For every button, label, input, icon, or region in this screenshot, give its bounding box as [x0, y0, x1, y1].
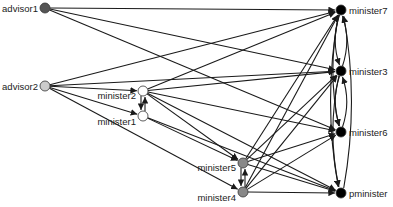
node-label: minister4 [197, 192, 236, 203]
node-circle[interactable] [336, 66, 346, 76]
node-circle[interactable] [238, 158, 248, 168]
node-minister2[interactable]: minister2 [97, 86, 148, 101]
edge-minister2-to-minister7 [148, 12, 336, 89]
node-label: pminister [349, 188, 388, 199]
edge-minister2-to-minister6 [148, 92, 335, 131]
node-minister1[interactable]: minister1 [97, 111, 148, 127]
node-circle[interactable] [336, 5, 346, 15]
node-circle[interactable] [238, 187, 248, 197]
node-minister7[interactable]: minister7 [336, 5, 388, 16]
network-diagram: advisor1advisor2minister2minister1minist… [0, 0, 393, 207]
node-minister6[interactable]: minister6 [336, 127, 388, 138]
node-label: minister7 [349, 5, 388, 16]
node-minister4[interactable]: minister4 [197, 187, 248, 203]
node-minister3[interactable]: minister3 [336, 66, 388, 77]
node-pminister[interactable]: pminister [336, 188, 388, 199]
edge-minister6-to-minister3 [343, 77, 347, 127]
node-circle[interactable] [138, 111, 148, 121]
nodes-layer: advisor1advisor2minister2minister1minist… [2, 3, 387, 204]
node-label: minister2 [97, 90, 136, 101]
edge-minister1-to-minister5 [148, 118, 238, 160]
node-advisor1[interactable]: advisor1 [2, 3, 50, 14]
edge-pminister-to-minister7 [344, 16, 352, 188]
edge-minister2-to-minister3 [148, 72, 335, 91]
edge-minister2-to-minister5 [147, 94, 238, 160]
node-label: advisor2 [2, 81, 38, 92]
node-label: minister6 [349, 127, 388, 138]
node-circle[interactable] [138, 86, 148, 96]
node-minister5[interactable]: minister5 [197, 158, 248, 173]
edge-minister5-to-minister6 [248, 134, 336, 162]
edge-minister4-to-pminister [248, 192, 335, 193]
node-label: minister1 [97, 116, 136, 127]
edge-minister5-to-pminister [248, 164, 335, 191]
node-label: minister3 [349, 66, 388, 77]
node-label: advisor1 [2, 3, 38, 14]
edge-minister2-to-pminister [147, 93, 335, 190]
node-circle[interactable] [40, 3, 50, 13]
node-circle[interactable] [336, 127, 346, 137]
edge-advisor1-to-minister7 [50, 8, 335, 10]
node-advisor2[interactable]: advisor2 [2, 81, 50, 92]
node-label: minister5 [197, 162, 236, 173]
node-circle[interactable] [40, 81, 50, 91]
edge-minister4-to-minister3 [246, 76, 337, 188]
node-circle[interactable] [336, 188, 346, 198]
edge-advisor1-to-minister3 [50, 9, 335, 70]
